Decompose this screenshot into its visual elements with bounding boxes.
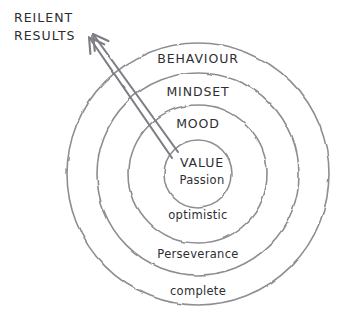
callout-line-2: RESULTS [14,28,75,43]
ring-label-optimistic: optimistic [168,208,227,222]
ring-label-mood: MOOD [176,116,220,131]
diagram-root: REILENT RESULTS BEHAVIOUR MINDSET MOOD V… [0,0,362,329]
callout-line-1: REILENT [14,10,73,25]
ring-label-mindset: MINDSET [166,84,229,99]
ring-label-perseverance: Perseverance [157,247,238,261]
ring-label-complete: complete [170,284,226,298]
ring-label-passion: Passion [179,173,224,187]
ring-label-value: VALUE [180,155,224,170]
ring-label-behaviour: BEHAVIOUR [157,51,239,66]
diagram-canvas: REILENT RESULTS BEHAVIOUR MINDSET MOOD V… [0,0,362,329]
